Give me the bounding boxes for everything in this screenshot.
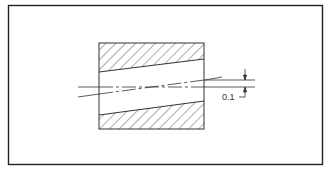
top-hatched-wall xyxy=(99,43,204,73)
arrow-down-icon xyxy=(244,75,247,80)
drawing-frame xyxy=(9,6,323,165)
arrow-up-icon xyxy=(244,87,247,92)
dimension-arrows xyxy=(239,69,247,97)
tolerance-drawing: 0.1 xyxy=(0,0,330,172)
dimension-value: 0.1 xyxy=(222,92,235,102)
bottom-hatched-wall xyxy=(99,100,204,130)
